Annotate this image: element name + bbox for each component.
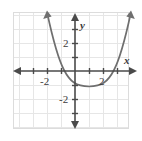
y-tick-label-pos2: 2 <box>63 38 69 49</box>
y-axis-label: y <box>80 20 85 31</box>
x-axis-label: x <box>124 55 130 66</box>
coordinate-plane-svg <box>0 0 142 141</box>
x-tick-label-neg2: -2 <box>40 76 49 87</box>
x-tick-label-pos2: 2 <box>99 76 105 87</box>
x-axis-arrow-right-icon <box>129 67 137 75</box>
graph-figure: y x -2 2 2 -2 <box>0 0 142 141</box>
y-tick-label-neg2: -2 <box>59 94 68 105</box>
